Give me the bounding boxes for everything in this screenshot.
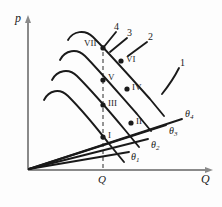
theta-subscript-3: 3 <box>174 130 178 138</box>
figure-container: p Q Q 1 2 3 4 θ1 θ2 θ3 θ4 I II III IV V … <box>0 0 222 207</box>
curve-label-2: 2 <box>148 31 153 42</box>
y-axis-label: p <box>15 11 21 26</box>
point-V <box>100 77 105 82</box>
point-VI <box>118 58 123 63</box>
branch-to-label-4 <box>103 32 116 48</box>
theta-label-3: θ3 <box>169 125 177 138</box>
point-II <box>128 120 133 125</box>
theta-label-2: θ2 <box>151 139 159 152</box>
curve-label-4: 4 <box>114 21 119 32</box>
y-axis-arrowhead <box>25 15 31 23</box>
point-I <box>100 134 105 139</box>
point-label-V: V <box>108 72 115 82</box>
point-label-II: II <box>136 116 142 126</box>
theta-label-4: θ4 <box>185 108 193 121</box>
theta-label-1: θ1 <box>131 151 139 164</box>
q-marker-label: Q <box>98 173 106 185</box>
branch-to-label-3 <box>110 38 127 52</box>
theta-subscript-2: 2 <box>156 144 160 152</box>
characteristic-curve-3 <box>52 71 139 147</box>
point-VII <box>100 45 105 50</box>
point-IV <box>124 86 129 91</box>
point-label-I: I <box>108 130 111 140</box>
theta-subscript-4: 4 <box>190 113 194 121</box>
x-axis-label: Q <box>201 172 210 187</box>
curve-label-1: 1 <box>180 57 185 68</box>
point-label-VI: VI <box>126 54 136 64</box>
point-label-IV: IV <box>132 82 142 92</box>
theta-subscript-1: 1 <box>136 156 140 164</box>
point-label-III: III <box>108 98 117 108</box>
throttle-line-theta1 <box>29 152 129 169</box>
point-label-VII: VII <box>84 38 97 48</box>
branch-to-label-1 <box>162 68 179 94</box>
curve-label-3: 3 <box>127 27 132 38</box>
point-III <box>100 102 105 107</box>
